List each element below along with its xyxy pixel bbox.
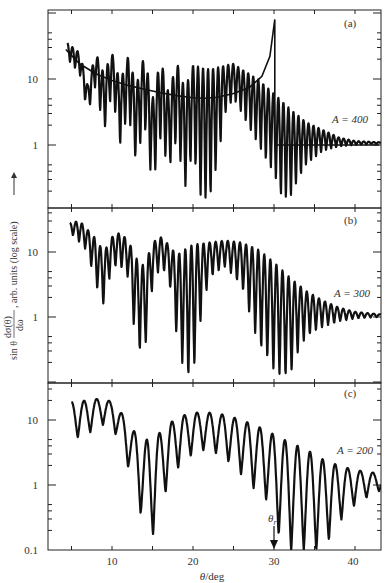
series-label-a: A = 400 xyxy=(331,113,368,125)
x-tick-label-30: 30 xyxy=(269,555,281,567)
series-label-b: A = 300 xyxy=(333,287,370,299)
series-label-c: A = 200 xyxy=(336,444,373,456)
y-tick-label-a-1: 1 xyxy=(33,139,39,151)
y-tick-label-a-10: 10 xyxy=(27,73,39,85)
panel-b-frame xyxy=(48,208,381,383)
panel-b: 10 1 (b) A = 300 xyxy=(27,208,381,383)
panel-c-ticks xyxy=(48,383,381,550)
panel-c-frame xyxy=(48,383,381,550)
y-tick-label-c-1: 1 xyxy=(33,479,39,491)
y-tick-label-b-10: 10 xyxy=(27,246,39,258)
rainbow-angle-annotation: θr xyxy=(268,512,278,549)
x-tick-label-20: 20 xyxy=(188,555,200,567)
curve-c-200 xyxy=(72,399,381,550)
panel-b-label: (b) xyxy=(344,214,357,227)
arrow-up-icon xyxy=(11,172,17,178)
y-axis-title-denominator: dω xyxy=(14,319,25,331)
y-axis-title-suffix: , arb. units (log scale) xyxy=(8,221,20,308)
x-tick-label-10: 10 xyxy=(107,555,119,567)
y-axis-title: sin θ dσ(θ) dω , arb. units (log scale) xyxy=(2,172,25,360)
arrow-down-icon xyxy=(270,540,278,549)
figure: 10 1 (a) A = 400 10 1 (b) A = 300 10 1 0… xyxy=(0,0,387,583)
y-axis-title-prefix: sin θ xyxy=(8,341,19,360)
panel-b-ticks xyxy=(48,208,381,383)
panel-c-label: (c) xyxy=(344,387,357,400)
y-axis-title-numerator: dσ(θ) xyxy=(2,316,14,338)
panel-a: 10 1 (a) A = 400 xyxy=(27,10,381,208)
x-axis-labels: 10 20 30 40 θ/deg xyxy=(107,555,360,582)
panel-c: 10 1 0.1 (c) A = 200 θr xyxy=(24,383,381,556)
y-tick-label-c-10: 10 xyxy=(27,414,39,426)
y-tick-label-b-1: 1 xyxy=(33,311,39,323)
rainbow-angle-label: θr xyxy=(268,512,277,527)
y-tick-label-c-0.1: 0.1 xyxy=(24,544,38,556)
x-tick-label-40: 40 xyxy=(348,555,360,567)
x-axis-title: θ/deg xyxy=(200,570,225,582)
panel-a-label: (a) xyxy=(344,17,357,30)
